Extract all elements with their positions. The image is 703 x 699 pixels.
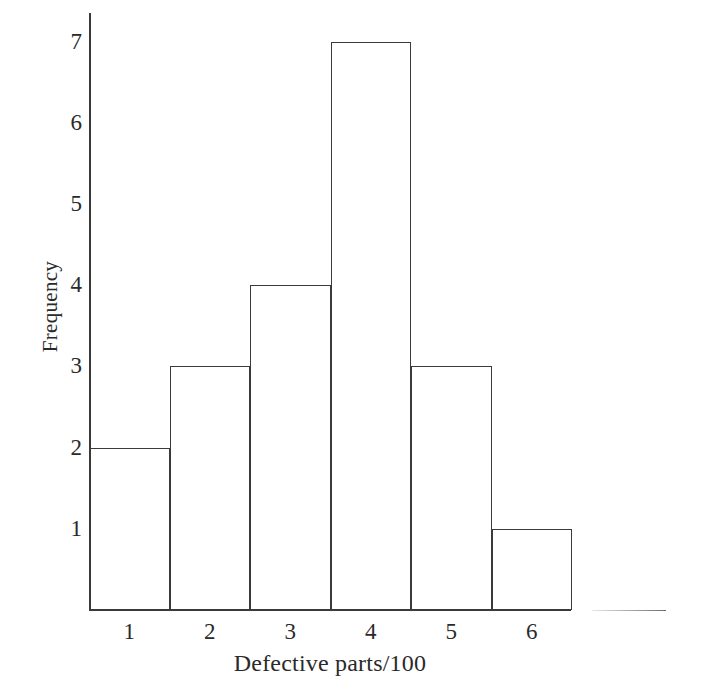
y-axis-tick-label: 6 xyxy=(54,111,82,134)
y-axis-tick-label: 5 xyxy=(54,192,82,215)
histogram-figure: 1234567 123456 Frequency Defective parts… xyxy=(0,0,703,699)
histogram-bar xyxy=(331,42,412,610)
y-axis-tick-label: 1 xyxy=(54,517,82,540)
x-axis-tick-label: 3 xyxy=(270,620,310,643)
histogram-bar xyxy=(411,366,492,610)
x-axis-tick-label: 2 xyxy=(190,620,230,643)
y-axis-title: Frequency xyxy=(38,227,63,387)
x-axis-tick-label: 1 xyxy=(109,620,149,643)
bar-series xyxy=(0,0,703,699)
x-axis-tick-label: 5 xyxy=(431,620,471,643)
histogram-bar xyxy=(170,366,251,610)
x-axis-tick-label: 4 xyxy=(351,620,391,643)
y-axis-tick-label: 2 xyxy=(54,436,82,459)
x-axis-title: Defective parts/100 xyxy=(89,650,571,677)
histogram-bar xyxy=(250,285,331,610)
x-axis-tick-label: 6 xyxy=(512,620,552,643)
y-axis-tick-label: 7 xyxy=(54,30,82,53)
histogram-bar xyxy=(89,448,170,610)
histogram-bar xyxy=(492,529,573,610)
